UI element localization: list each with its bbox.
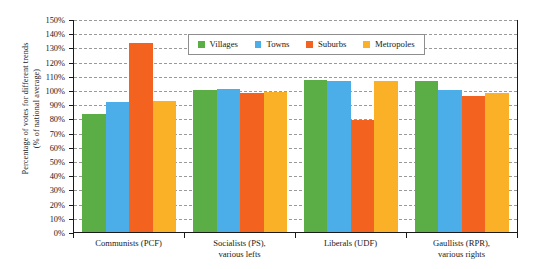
legend-item-towns[interactable]: Towns (255, 40, 290, 49)
bar-metropoles (374, 81, 398, 232)
x-axis-tick-label: Socialists (PS),various lefts (184, 238, 295, 260)
bar-chart-figure: Percentage of votes for different trends… (0, 0, 542, 269)
legend-swatch-icon (255, 41, 262, 48)
x-axis-tick-label-line: various rights (406, 249, 517, 260)
y-axis-tick-label: 120% (45, 58, 65, 67)
bar-suburbs (240, 93, 264, 232)
y-axis-tick-label: 90% (50, 101, 65, 110)
bar-villages (304, 80, 328, 232)
x-axis-tick-label-line: Communists (PCF) (73, 238, 184, 249)
y-axis-tick-label: 50% (50, 158, 65, 167)
bar-towns (217, 89, 241, 232)
y-axis-tick-label: 30% (50, 186, 65, 195)
legend-item-villages[interactable]: Villages (198, 40, 238, 49)
y-axis-tick-label: 100% (45, 87, 65, 96)
x-axis-tick-label: Liberals (UDF) (295, 238, 406, 260)
bar-villages (193, 90, 217, 232)
legend-item-metropoles[interactable]: Metropoles (363, 40, 414, 49)
y-axis-title-line-1: Percentage of votes for different trends (21, 4, 32, 214)
chart-legend: VillagesTownsSuburbsMetropoles (188, 34, 425, 55)
bar-metropoles (264, 92, 288, 232)
legend-item-suburbs[interactable]: Suburbs (306, 40, 346, 49)
x-axis-tick-label-line: Liberals (UDF) (295, 238, 406, 249)
bar-towns (438, 90, 462, 232)
y-axis-tick-label: 60% (50, 143, 65, 152)
legend-label: Towns (266, 40, 289, 49)
bar-towns (327, 81, 351, 232)
y-axis-tick-label: 140% (45, 30, 65, 39)
x-axis-tick (517, 233, 518, 238)
legend-label: Villages (210, 40, 238, 49)
y-axis-tick-label: 70% (50, 129, 65, 138)
legend-swatch-icon (198, 41, 205, 48)
bar-villages (82, 114, 106, 232)
x-axis-tick-label-line: Socialists (PS), (184, 238, 295, 249)
x-axis-tick-label: Communists (PCF) (73, 238, 184, 260)
y-axis-tick-label: 10% (50, 214, 65, 223)
y-axis-tick-label: 130% (45, 44, 65, 53)
legend-label: Suburbs (318, 40, 346, 49)
y-axis-tick-label: 40% (50, 172, 65, 181)
y-axis-tick-label: 110% (46, 72, 65, 81)
x-axis-tick-labels: Communists (PCF)Socialists (PS),various … (73, 238, 517, 260)
legend-swatch-icon (363, 41, 370, 48)
legend-label: Metropoles (375, 40, 415, 49)
y-axis-tick-label: 150% (45, 16, 65, 25)
bar-suburbs (462, 96, 486, 232)
bar-suburbs (351, 120, 375, 232)
x-axis-tick-label: Gaullists (RPR),various rights (406, 238, 517, 260)
x-axis-tick-label-line: Gaullists (RPR), (406, 238, 517, 249)
bar-metropoles (485, 93, 509, 232)
x-axis-tick-label-line: various lefts (184, 249, 295, 260)
bar-group (74, 20, 185, 232)
bar-metropoles (153, 101, 177, 232)
bar-towns (106, 102, 130, 232)
y-axis-tick-labels: 0%10%20%30%40%50%60%70%80%90%100%110%120… (31, 20, 69, 233)
y-axis-tick-label: 80% (50, 115, 65, 124)
bar-villages (415, 81, 439, 232)
y-axis-tick-label: 0% (54, 229, 65, 238)
legend-swatch-icon (306, 41, 313, 48)
y-axis-tick-label: 20% (50, 200, 65, 209)
bar-suburbs (129, 43, 153, 232)
